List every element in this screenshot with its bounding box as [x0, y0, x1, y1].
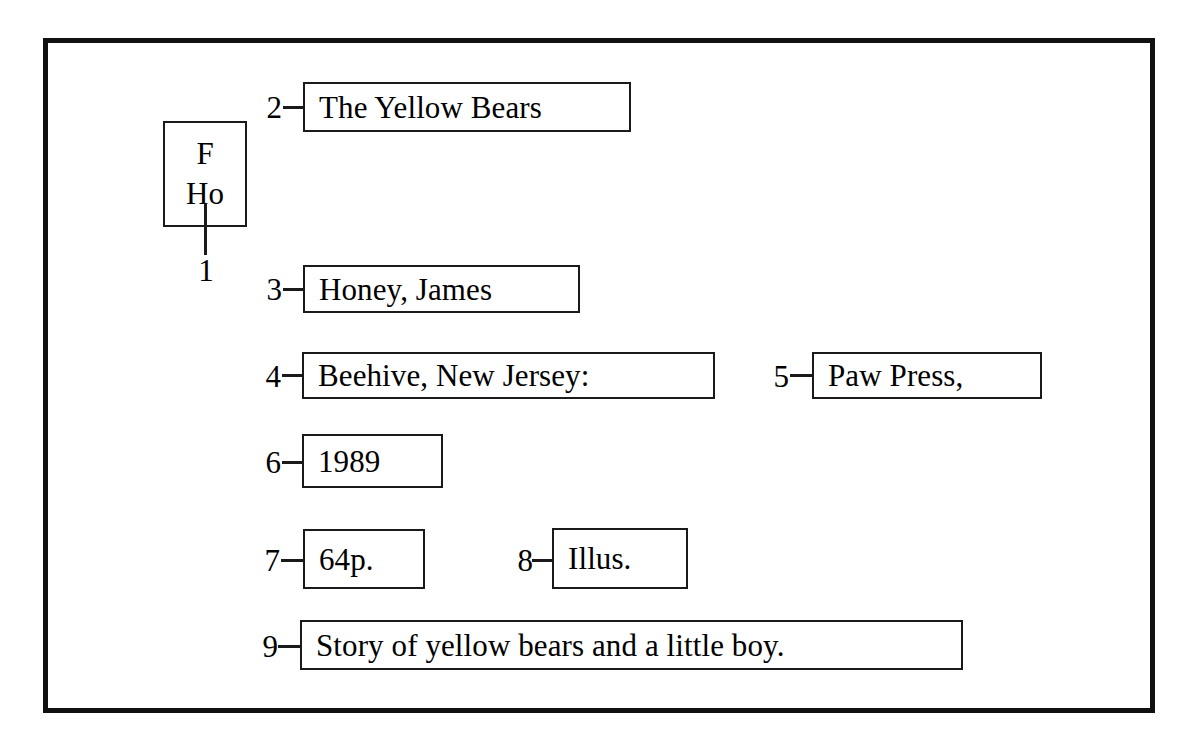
field-box-6[interactable]: 1989	[302, 434, 443, 488]
field-box-9[interactable]: Story of yellow bears and a little boy.	[300, 620, 963, 670]
callout-dash-2	[283, 106, 305, 109]
field-text-7: 64p.	[319, 544, 374, 575]
field-text-9: Story of yellow bears and a little boy.	[316, 630, 785, 661]
call-number-line-1: F	[196, 134, 213, 174]
field-box-8[interactable]: Illus.	[552, 528, 688, 589]
callout-number-2: 2	[252, 92, 282, 123]
field-box-5[interactable]: Paw Press,	[812, 352, 1042, 399]
field-box-3[interactable]: Honey, James	[303, 265, 580, 313]
diagram-page: F Ho 1 2The Yellow Bears3Honey, James4Be…	[0, 0, 1199, 755]
field-text-3: Honey, James	[319, 274, 492, 305]
callout-dash-4	[282, 374, 304, 377]
callout-dash-6	[282, 461, 304, 464]
callout-dash-9	[278, 645, 302, 648]
field-box-2[interactable]: The Yellow Bears	[303, 82, 631, 132]
callout-number-1: 1	[189, 255, 223, 286]
callout-dash-3	[283, 288, 305, 291]
callout-number-7: 7	[250, 545, 280, 576]
callout-dash-7	[281, 559, 305, 562]
callout-number-4: 4	[251, 361, 281, 392]
callout-number-6: 6	[251, 447, 281, 478]
callout-number-5: 5	[759, 361, 789, 392]
field-box-4[interactable]: Beehive, New Jersey:	[302, 352, 715, 399]
field-text-8: Illus.	[568, 543, 631, 574]
field-box-7[interactable]: 64p.	[303, 529, 425, 589]
field-text-2: The Yellow Bears	[319, 92, 542, 123]
callout-dash-8	[532, 559, 554, 562]
callout-1-leader-line	[204, 203, 207, 255]
field-text-5: Paw Press,	[828, 360, 963, 391]
callout-dash-5	[790, 374, 814, 377]
callout-number-3: 3	[252, 274, 282, 305]
callout-number-9: 9	[248, 631, 278, 662]
field-text-6: 1989	[318, 446, 380, 477]
field-text-4: Beehive, New Jersey:	[318, 360, 589, 391]
callout-number-8: 8	[503, 545, 533, 576]
